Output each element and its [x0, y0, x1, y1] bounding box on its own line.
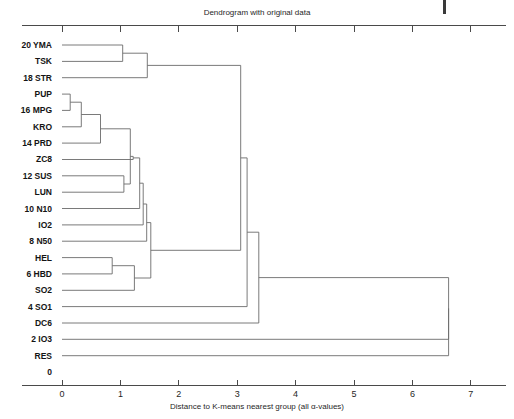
- leaf-label-SO2: SO2: [35, 285, 52, 295]
- leaf-label-LUN: LUN: [35, 187, 52, 197]
- leaf-label-SO1: 4 SO1: [28, 302, 52, 312]
- leaf-label-HBD: 6 HBD: [26, 269, 52, 279]
- x-tick-label-0: 0: [59, 389, 64, 399]
- leaf-label-KRO: KRO: [33, 122, 52, 132]
- leaf-label-RES: RES: [35, 351, 53, 361]
- leaf-label-STR: 18 STR: [23, 73, 52, 83]
- leaf-label-PRD: 14 PRD: [22, 138, 52, 148]
- x-tick-label-1: 1: [118, 389, 123, 399]
- dendrogram-figure: Dendrogram with original data 01234567 D…: [0, 0, 514, 419]
- leaf-label-IO2: IO2: [38, 220, 52, 230]
- leaf-label-PUP: PUP: [35, 89, 53, 99]
- x-tick-label-6: 6: [410, 389, 415, 399]
- leaf-label-DC6: DC6: [35, 318, 52, 328]
- x-tick-label-5: 5: [351, 389, 356, 399]
- x-tick-label-2: 2: [176, 389, 181, 399]
- x-tick-label-3: 3: [235, 389, 240, 399]
- scan-artifact-mark: [443, 0, 446, 14]
- x-axis-title: Distance to K-means nearest group (all α…: [170, 402, 344, 411]
- leaf-label-zero: 0: [47, 367, 52, 377]
- x-tick-label-7: 7: [468, 389, 473, 399]
- leaf-label-IO3: 2 IO3: [31, 334, 52, 344]
- page-title: Dendrogram with original data: [204, 8, 311, 17]
- leaf-label-N50: 8 N50: [29, 236, 52, 246]
- x-tick-label-4: 4: [293, 389, 298, 399]
- leaf-label-N10: 10 N10: [25, 204, 53, 214]
- leaf-label-SUS: 12 SUS: [23, 171, 53, 181]
- leaf-label-ZC8: ZC8: [36, 154, 52, 164]
- leaf-label-YMA: 20 YMA: [21, 40, 52, 50]
- leaf-label-MPG: 16 MPG: [21, 105, 53, 115]
- leaf-label-TSK: TSK: [35, 56, 53, 66]
- leaf-label-HEL: HEL: [35, 253, 52, 263]
